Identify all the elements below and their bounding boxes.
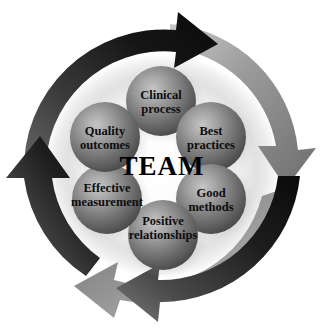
- sphere-label-effective-measurement-line2: measurement: [71, 195, 144, 209]
- sphere-label-clinical-process-line1: Clinical: [140, 88, 182, 102]
- sphere-label-effective-measurement-line1: Effective: [83, 181, 131, 195]
- diagram-canvas: Clinical process Best practices Good met…: [0, 0, 324, 332]
- sphere-label-best-practices-line1: Best: [200, 124, 224, 138]
- sphere-label-clinical-process-line2: process: [141, 102, 180, 116]
- sphere-label-best-practices-line2: practices: [187, 138, 235, 152]
- sphere-label-good-methods-line1: Good: [196, 186, 225, 200]
- sphere-label-positive-relationships-line2: relationships: [129, 228, 198, 242]
- sphere-label-positive-relationships-line1: Positive: [142, 214, 184, 228]
- sphere-label-quality-outcomes-line2: outcomes: [80, 138, 130, 152]
- sphere-label-good-methods-line2: methods: [188, 200, 233, 214]
- sphere-label-quality-outcomes-line1: Quality: [85, 124, 126, 138]
- center-team-label: TEAM: [120, 151, 205, 181]
- center-label-text: TEAM: [120, 151, 205, 181]
- team-cycle-diagram: Clinical process Best practices Good met…: [0, 0, 324, 332]
